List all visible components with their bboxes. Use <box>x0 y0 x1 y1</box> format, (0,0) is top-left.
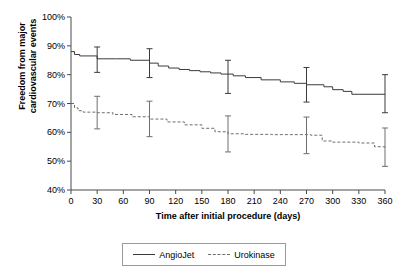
survival-chart: Freedom from major cardiovascular events… <box>0 0 406 279</box>
legend-line-solid-icon <box>133 254 155 256</box>
x-tick-label: 360 <box>370 196 400 206</box>
legend-label-angiojet: AngioJet <box>159 250 194 260</box>
legend-item-angiojet: AngioJet <box>133 250 194 260</box>
error-bar-angiojet <box>94 47 100 72</box>
y-tick-label: 100% <box>31 12 65 22</box>
legend-item-urokinase: Urokinase <box>208 250 275 260</box>
error-bar-angiojet <box>382 75 388 113</box>
y-tick-label: 60% <box>31 127 65 137</box>
y-tick-label: 70% <box>31 99 65 109</box>
y-tick-label: 40% <box>31 185 65 195</box>
legend-label-urokinase: Urokinase <box>234 250 275 260</box>
error-bar-angiojet <box>225 60 231 93</box>
y-tick-label: 90% <box>31 41 65 51</box>
error-bar-urokinase <box>304 117 310 154</box>
chart-legend: AngioJet Urokinase <box>122 243 286 266</box>
y-tick-label: 50% <box>31 156 65 166</box>
x-axis-title: Time after initial procedure (days) <box>71 211 385 221</box>
y-tick-label: 80% <box>31 70 65 80</box>
axis-lines <box>71 17 385 190</box>
legend-line-dashed-icon <box>208 254 230 256</box>
error-bar-urokinase <box>225 116 231 152</box>
